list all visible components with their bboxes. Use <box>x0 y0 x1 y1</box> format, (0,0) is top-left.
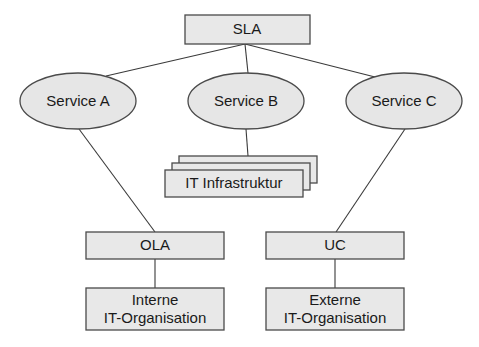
ola-label: OLA <box>140 236 170 253</box>
interne-line2: IT-Organisation <box>104 309 207 326</box>
edge-sla-service-c <box>245 44 375 77</box>
uc-label: UC <box>324 236 346 253</box>
edge-sla-service-a <box>106 44 245 76</box>
edge-service-a-ola <box>79 129 155 232</box>
interne-line1: Interne <box>132 291 179 308</box>
service-c-node: Service C <box>346 73 462 129</box>
service-a-label: Service A <box>46 92 109 109</box>
edge-sla-service-b <box>245 44 248 73</box>
uc-node: UC <box>266 232 404 259</box>
it-infrastruktur-node: IT Infrastruktur <box>165 156 317 197</box>
service-c-label: Service C <box>371 92 436 109</box>
externe-line2: IT-Organisation <box>284 309 387 326</box>
service-b-label: Service B <box>214 92 278 109</box>
service-a-node: Service A <box>20 73 136 129</box>
sla-diagram: SLA Service A Service B Service C IT Inf… <box>0 0 479 347</box>
externe-it-organisation-node: Externe IT-Organisation <box>266 288 404 330</box>
it-infrastruktur-label: IT Infrastruktur <box>185 174 282 191</box>
edge-service-b-infra <box>246 129 248 156</box>
externe-line1: Externe <box>309 291 361 308</box>
sla-node: SLA <box>185 15 310 44</box>
sla-label: SLA <box>233 20 261 37</box>
interne-it-organisation-node: Interne IT-Organisation <box>86 288 224 330</box>
edge-service-c-uc <box>336 129 405 232</box>
ola-node: OLA <box>86 232 224 259</box>
service-b-node: Service B <box>188 73 304 129</box>
